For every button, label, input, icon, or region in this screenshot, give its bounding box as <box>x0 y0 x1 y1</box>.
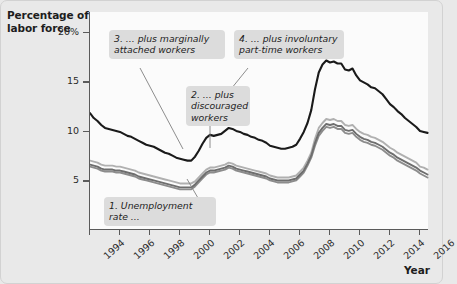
annotation-callout-marginally-attached: 3. ... plus marginally attached workers <box>109 30 225 59</box>
x-tick-mark <box>179 230 180 235</box>
x-tick-mark <box>299 230 300 235</box>
x-tick-label-2012: 2012 <box>371 237 396 261</box>
y-axis-title-line1: Percentage of <box>7 9 91 22</box>
x-tick-mark <box>209 230 210 235</box>
x-axis-title: Year <box>404 264 430 276</box>
x-tick-label-2004: 2004 <box>251 237 276 261</box>
x-tick-mark <box>329 230 330 235</box>
x-tick-label-1998: 1998 <box>161 237 186 261</box>
annotation-callout-unemployment-rate: 1. Unemployment rate ... <box>104 197 216 226</box>
x-tick-label-2010: 2010 <box>341 237 366 261</box>
series-line-u-4 <box>90 124 428 187</box>
annotation-callout-involuntary-part-time: 4. ... plus involuntary part-time worker… <box>234 30 344 59</box>
x-tick-label-2014: 2014 <box>401 237 426 261</box>
x-tick-mark <box>119 230 120 235</box>
x-tick-label-2016: 2016 <box>431 237 456 261</box>
x-tick-label-1994: 1994 <box>101 237 126 261</box>
series-line-u-3 <box>90 127 428 189</box>
x-tick-mark <box>389 230 390 235</box>
x-tick-mark <box>269 230 270 235</box>
annotation-callout-discouraged: 2. ... plus discouraged workers <box>186 86 250 126</box>
y-tick-label-10: 10 <box>45 125 79 136</box>
x-tick-mark <box>239 230 240 235</box>
series-line-u-6 <box>90 61 428 161</box>
y-tick-label-20pct: 20% <box>45 26 79 37</box>
y-tick-label-15: 15 <box>45 75 79 86</box>
y-tick-label-5: 5 <box>45 174 79 185</box>
x-tick-mark <box>89 230 90 235</box>
x-tick-mark <box>149 230 150 235</box>
x-tick-label-2002: 2002 <box>221 237 246 261</box>
x-tick-label-2008: 2008 <box>311 237 336 261</box>
x-tick-mark <box>359 230 360 235</box>
x-tick-mark <box>419 230 420 235</box>
x-tick-label-2000: 2000 <box>191 237 216 261</box>
x-tick-label-2006: 2006 <box>281 237 306 261</box>
x-tick-label-1996: 1996 <box>131 237 156 261</box>
